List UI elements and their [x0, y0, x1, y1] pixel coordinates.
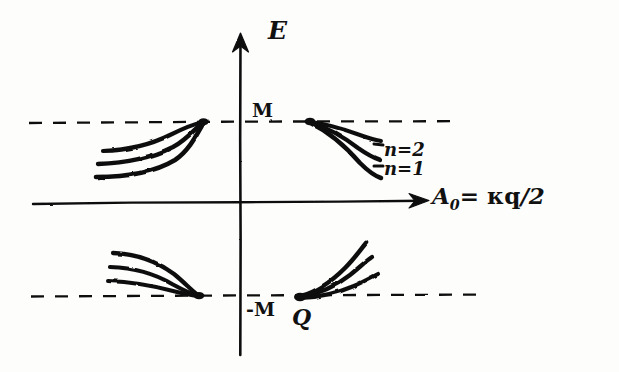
branch-n2-label: n=2: [384, 141, 425, 159]
lower-mass-level-line: [31, 295, 482, 297]
lower-mass-level-label: -M: [246, 300, 275, 319]
upper-mass-level-line: [29, 121, 460, 123]
upper-right-branches: [305, 118, 381, 178]
figure-canvas: E M -M Q n=2 n=1 A0= κq/2: [0, 0, 619, 372]
branch-leader-ticks: [374, 144, 383, 166]
branch-n2-leader: [374, 144, 383, 145]
lower-left-branches: [108, 253, 204, 299]
a-zero-subscript: 0: [450, 197, 460, 213]
branch-n1-label: n=1: [384, 160, 425, 178]
lower-right-branches: [294, 243, 378, 301]
upper-right-convergence-point: [305, 118, 316, 126]
a-zero-axis-label: A0= κq/2: [432, 184, 545, 212]
kappa-q-expression: κq: [487, 182, 520, 209]
over-two: /2: [520, 182, 544, 209]
q-point-marker: [294, 293, 306, 301]
upper-mass-level-label: M: [252, 101, 273, 120]
axes-group: [33, 33, 429, 355]
energy-axis-label: E: [268, 18, 287, 43]
a-zero-symbol: A: [432, 182, 450, 209]
a-zero-axis: [33, 194, 429, 209]
lower-left-convergence-point: [194, 292, 205, 299]
upper-left-branches: [96, 118, 209, 177]
a-zero-equals: =: [460, 182, 479, 209]
q-point-label: Q: [292, 306, 311, 328]
upper-left-convergence-point: [198, 118, 208, 125]
